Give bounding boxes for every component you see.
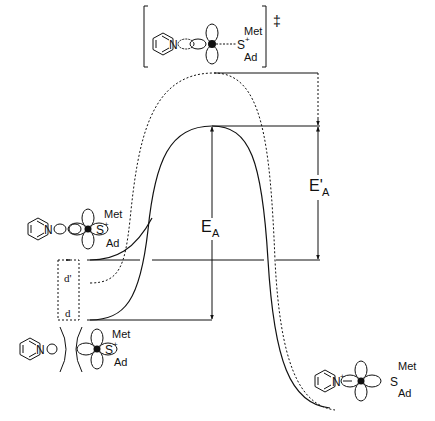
d-prime-label: d' (64, 272, 72, 284)
separated-reactants-structure: N S + Met Ad (20, 327, 130, 372)
ea-prime-subscript: A (322, 186, 330, 198)
rc-met-label: Met (104, 208, 122, 220)
sr-s-label: S (105, 343, 113, 357)
ts-ad-label: Ad (244, 51, 257, 63)
energy-diagram: N S + Met Ad ‡ E A E' A (0, 0, 435, 421)
rc-n-label: N (44, 223, 53, 237)
left-bracket (144, 6, 148, 67)
ts-s-label: S (237, 38, 245, 52)
sr-s-charge: + (113, 340, 118, 349)
rc-s-charge: + (104, 220, 109, 229)
ts-n-label: N (169, 38, 178, 52)
energy-level-lines (87, 73, 320, 320)
p-ad-label: Ad (398, 387, 411, 399)
ea-subscript: A (212, 227, 220, 239)
right-bracket (262, 6, 266, 67)
ea-label: E (201, 218, 212, 235)
sr-n-label: N (36, 343, 45, 357)
rc-s-label: S (96, 223, 104, 237)
sr-met-label: Met (112, 328, 130, 340)
distance-box: d' d (58, 260, 79, 320)
reactant-complex-structure: N S + Met Ad (28, 208, 122, 249)
left-paren (60, 327, 66, 372)
ts-dagger: ‡ (273, 13, 281, 29)
transition-state-structure: N S + Met Ad ‡ (144, 6, 281, 67)
p-s-label: S (390, 375, 398, 389)
products-structure: N + S Met Ad (315, 360, 416, 401)
rc-ad-label: Ad (106, 237, 119, 249)
p-met-label: Met (398, 360, 416, 372)
ea-prime-label: E' (309, 177, 323, 194)
d-label: d (65, 307, 71, 319)
sr-ad-label: Ad (114, 356, 127, 368)
ts-met-label: Met (244, 25, 262, 37)
